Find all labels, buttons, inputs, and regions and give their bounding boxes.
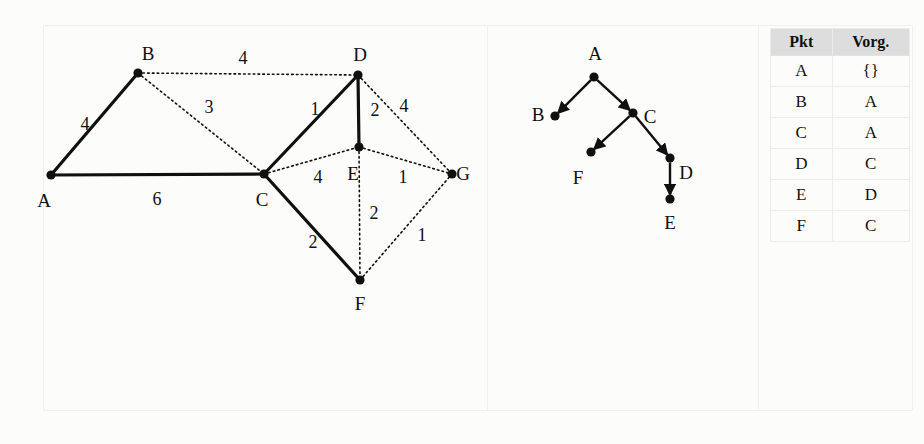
table-cell-vorg: D xyxy=(832,180,909,211)
table-cell-pkt: A xyxy=(771,56,833,87)
table-cell-pkt: B xyxy=(771,87,833,118)
table-cell-vorg: C xyxy=(832,211,909,242)
tree-node-label-D: D xyxy=(679,163,693,182)
table-row: BA xyxy=(771,87,910,118)
table-body: A{}BACADCEDFC xyxy=(771,56,910,242)
tree-node-label-E: E xyxy=(664,213,676,232)
table-row: DC xyxy=(771,149,910,180)
table-header-row: Pkt Vorg. xyxy=(771,29,910,56)
tree-edge-CF xyxy=(594,116,629,149)
tree-node-E[interactable] xyxy=(665,194,674,203)
tree-node-F[interactable] xyxy=(586,147,595,156)
tree-edge-AB xyxy=(558,80,591,113)
table-row: FC xyxy=(771,211,910,242)
tree-node-label-F: F xyxy=(573,168,584,187)
table-row: CA xyxy=(771,118,910,149)
tree-node-B[interactable] xyxy=(550,111,559,120)
table-cell-vorg: C xyxy=(832,149,909,180)
tree-node-label-C: C xyxy=(644,107,657,126)
table-cell-pkt: F xyxy=(771,211,833,242)
tree-node-label-A: A xyxy=(588,44,602,63)
table-cell-pkt: C xyxy=(771,118,833,149)
tree-node-A[interactable] xyxy=(589,72,598,81)
tree-node-C[interactable] xyxy=(628,108,637,117)
predecessor-table: Pkt Vorg. A{}BACADCEDFC xyxy=(770,28,910,242)
table-cell-pkt: D xyxy=(771,149,833,180)
table-cell-pkt: E xyxy=(771,180,833,211)
table-header-pkt: Pkt xyxy=(771,29,833,56)
page-canvas: 464314224121ABCDEFG ABCFDE Pkt Vorg. A{}… xyxy=(0,0,924,444)
table-row: ED xyxy=(771,180,910,211)
tree-graph-nodes xyxy=(550,72,674,203)
table-cell-vorg: {} xyxy=(832,56,909,87)
table-row: A{} xyxy=(771,56,910,87)
table-cell-vorg: A xyxy=(832,87,909,118)
tree-node-label-B: B xyxy=(532,105,545,124)
tree-edge-AC xyxy=(597,80,629,110)
tree-node-D[interactable] xyxy=(665,153,674,162)
table-header-vorg: Vorg. xyxy=(832,29,909,56)
table-cell-vorg: A xyxy=(832,118,909,149)
